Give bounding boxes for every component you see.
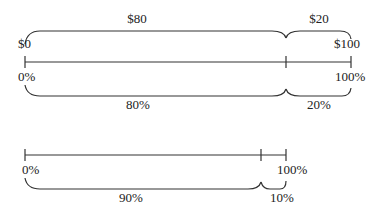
label-20-dollar: $20	[309, 12, 329, 25]
label-top-start-percent: 0%	[18, 70, 35, 83]
label-bottom-end-percent: 100%	[277, 163, 307, 176]
brace-bottom-80-percent	[25, 85, 286, 96]
brace-top-80-dollar	[25, 31, 286, 44]
label-80-dollar: $80	[127, 12, 147, 25]
brace-10-percent	[261, 181, 286, 189]
label-bottom-start-percent: 0%	[22, 163, 39, 176]
label-90-percent: 90%	[119, 191, 143, 204]
label-end-dollar: $100	[334, 37, 360, 50]
label-80-percent: 80%	[126, 98, 150, 111]
brace-bottom-20-percent	[286, 88, 351, 96]
brace-90-percent	[25, 178, 261, 189]
label-start-dollar: $0	[18, 37, 31, 50]
label-top-end-percent: 100%	[335, 70, 365, 83]
label-20-percent: 20%	[307, 98, 331, 111]
label-10-percent: 10%	[270, 191, 294, 204]
